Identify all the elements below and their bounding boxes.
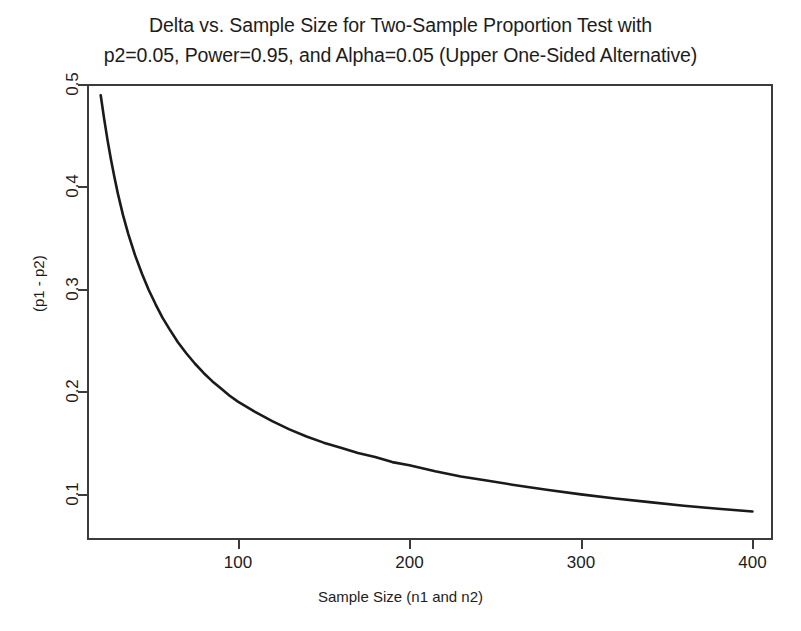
y-axis-tick-label: 0.1	[63, 482, 83, 506]
y-axis-tick-label: 0.2	[63, 380, 83, 404]
x-axis-tick-label: 200	[395, 553, 423, 573]
data-curve	[87, 84, 773, 540]
chart-title-line-1: Delta vs. Sample Size for Two-Sample Pro…	[0, 10, 801, 40]
x-axis-tick-label: 100	[224, 553, 252, 573]
x-axis-tick-label: 300	[567, 553, 595, 573]
y-axis-tick-label: 0.5	[63, 72, 83, 96]
x-axis-tick	[409, 540, 411, 549]
x-axis-tick-label: 400	[738, 553, 766, 573]
x-axis-tick	[581, 540, 583, 549]
y-axis-tick-label: 0.4	[63, 175, 83, 199]
y-axis-tick-label: 0.3	[63, 277, 83, 301]
x-axis-label: Sample Size (n1 and n2)	[0, 588, 801, 605]
y-axis-label: (p1 - p2)	[30, 255, 47, 312]
x-axis-tick	[238, 540, 240, 549]
x-axis-tick	[752, 540, 754, 549]
plot-area: 0.10.20.30.40.5 100200300400	[87, 84, 773, 540]
chart-title: Delta vs. Sample Size for Two-Sample Pro…	[0, 10, 801, 70]
chart-title-line-2: p2=0.05, Power=0.95, and Alpha=0.05 (Upp…	[0, 40, 801, 70]
chart-figure: Delta vs. Sample Size for Two-Sample Pro…	[0, 0, 801, 631]
